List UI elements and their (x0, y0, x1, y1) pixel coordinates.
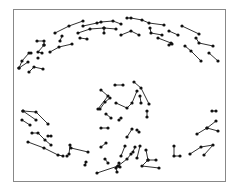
node-dot (49, 143, 52, 146)
node-dot (81, 24, 84, 27)
node-dot (84, 160, 87, 163)
node-dot (58, 39, 61, 42)
node-dot (78, 36, 81, 39)
node-dot (103, 100, 106, 103)
node-dot (102, 26, 105, 29)
node-dot (140, 18, 143, 21)
node-dot (195, 132, 198, 135)
node-dot (207, 51, 210, 54)
node-dot (188, 152, 191, 155)
node-dot (125, 135, 128, 138)
node-dot (216, 59, 219, 62)
node-dot (40, 51, 43, 54)
node-dot (41, 67, 44, 70)
node-dot (103, 157, 106, 160)
node-dot (106, 94, 109, 97)
node-dot (20, 59, 23, 62)
node-dot (83, 163, 86, 166)
node-dot (114, 27, 117, 30)
node-dot (56, 153, 59, 156)
node-dot (176, 33, 179, 36)
node-dot (17, 66, 20, 69)
node-dot (189, 49, 192, 52)
node-dot (106, 126, 109, 129)
node-dot (99, 88, 102, 91)
node-dot (115, 170, 118, 173)
node-dot (139, 86, 142, 89)
node-dot (67, 152, 70, 155)
node-dot (135, 89, 138, 92)
node-dot (30, 131, 33, 134)
node-dot (99, 126, 102, 129)
node-dot (132, 80, 135, 83)
node-dot (27, 70, 30, 73)
node-dot (216, 129, 219, 132)
diagram-canvas (0, 0, 237, 191)
node-dot (114, 101, 117, 104)
node-dot (172, 144, 175, 147)
node-dot (197, 32, 200, 35)
node-dot (21, 109, 24, 112)
node-dot (147, 21, 150, 24)
node-dot (113, 83, 116, 86)
node-dot (154, 158, 157, 161)
node-dot (46, 134, 49, 137)
node-dot (96, 107, 99, 110)
node-dot (125, 157, 128, 160)
node-dot (104, 141, 107, 144)
node-dot (172, 154, 175, 157)
node-dot (26, 140, 29, 143)
node-dot (119, 22, 122, 25)
node-dot (167, 43, 170, 46)
node-dot (162, 23, 165, 26)
node-dot (53, 31, 56, 34)
node-dot (32, 65, 35, 68)
node-dot (202, 153, 205, 156)
node-dot (27, 51, 30, 54)
node-dot (114, 166, 117, 169)
node-dot (34, 118, 37, 121)
node-dot (36, 131, 39, 134)
node-dot (36, 56, 39, 59)
node-dot (210, 109, 213, 112)
node-dot (130, 127, 133, 130)
node-dot (148, 26, 151, 29)
node-dot (26, 60, 29, 63)
node-dot (61, 154, 64, 157)
node-dot (140, 164, 143, 167)
node-dot (135, 156, 138, 159)
node-dot (194, 36, 197, 39)
node-dot (138, 94, 141, 97)
node-dot (129, 152, 132, 155)
node-dot (138, 144, 141, 147)
node-dot (144, 148, 147, 151)
node-dot (81, 19, 84, 22)
node-dot (129, 16, 132, 19)
node-dot (42, 146, 45, 149)
node-dot (199, 59, 202, 62)
node-dot (119, 154, 122, 157)
node-dot (137, 33, 140, 36)
node-dot (205, 126, 208, 129)
node-dot (70, 42, 73, 45)
node-dot (156, 36, 159, 39)
node-dot (119, 33, 122, 36)
node-dot (117, 161, 120, 164)
node-dot (57, 45, 60, 48)
node-dot (121, 83, 124, 86)
node-dot (68, 143, 71, 146)
node-dot (170, 42, 173, 45)
node-dot (145, 109, 148, 112)
node-dot (160, 33, 163, 36)
node-dot (28, 123, 31, 126)
node-dot (102, 31, 105, 34)
node-dot (139, 101, 142, 104)
node-dot (67, 24, 70, 27)
node-dot (34, 110, 37, 113)
node-dot (130, 101, 133, 104)
node-dot (199, 145, 202, 148)
node-dot (183, 44, 186, 47)
node-dot (76, 31, 79, 34)
node-dot (88, 27, 91, 30)
node-dot (20, 118, 23, 121)
